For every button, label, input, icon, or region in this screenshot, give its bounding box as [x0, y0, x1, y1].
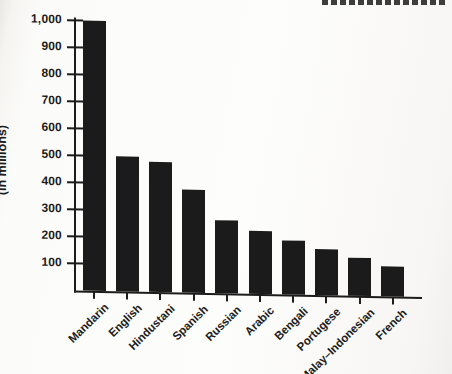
x-tick-hindustani — [159, 293, 161, 300]
x-tick-mandarin — [93, 292, 95, 299]
bar-portugese — [315, 249, 338, 295]
bar-hindustani — [149, 162, 172, 292]
scanned-page: (in millions) 10020030040050060070080090… — [0, 0, 452, 374]
bar-arabic — [249, 230, 272, 294]
y-tick-1000 — [67, 19, 83, 21]
y-tick-100 — [67, 262, 83, 264]
y-tick-700 — [67, 100, 83, 102]
y-tick-label-100: 100 — [0, 254, 62, 269]
x-tick-french — [392, 298, 394, 305]
y-tick-800 — [67, 73, 83, 75]
x-category-label-russian: Russian — [203, 304, 243, 344]
x-category-label-mandarin: Mandarin — [66, 301, 111, 345]
x-tick-bengali — [292, 296, 294, 303]
bar-russian — [215, 220, 238, 293]
x-tick-arabic — [259, 295, 261, 302]
y-tick-400 — [67, 181, 83, 183]
x-category-label-french: French — [374, 307, 410, 342]
y-tick-300 — [67, 208, 83, 210]
y-tick-label-1000: 1,000 — [0, 11, 62, 26]
bar-malay-indonesian — [348, 258, 371, 296]
bar-bengali — [282, 240, 305, 294]
x-category-label-spanish: Spanish — [170, 303, 210, 343]
y-tick-600 — [67, 127, 83, 129]
bar-spanish — [182, 190, 205, 293]
y-tick-500 — [67, 154, 83, 156]
y-tick-label-900: 900 — [0, 38, 62, 53]
y-tick-label-500: 500 — [0, 146, 62, 161]
bar-french — [381, 267, 404, 297]
x-tick-portugese — [325, 296, 327, 303]
y-tick-900 — [67, 46, 83, 48]
y-tick-label-800: 800 — [0, 65, 62, 80]
y-tick-label-300: 300 — [0, 200, 62, 215]
y-tick-label-200: 200 — [0, 227, 62, 242]
x-tick-russian — [226, 294, 228, 301]
x-tick-english — [126, 292, 128, 299]
y-tick-label-600: 600 — [0, 119, 62, 134]
cropped-title-text — [322, 0, 448, 5]
y-tick-200 — [67, 235, 83, 237]
bar-mandarin — [83, 21, 106, 291]
x-tick-malay-indonesian — [359, 297, 361, 304]
bar-english — [116, 156, 139, 291]
y-tick-label-400: 400 — [0, 173, 62, 188]
bar-chart: (in millions) 10020030040050060070080090… — [0, 0, 452, 374]
x-tick-spanish — [193, 294, 195, 301]
y-tick-label-700: 700 — [0, 92, 62, 107]
